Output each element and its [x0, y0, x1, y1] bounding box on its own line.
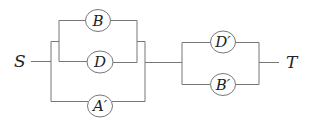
outer-right-wire [112, 42, 145, 102]
node-b-label: B [91, 12, 103, 30]
node-a-prime-label: A′ [91, 97, 108, 115]
node-b-prime-label: B′ [215, 76, 231, 94]
network-diagram: S B D A′ D′ B′ T [0, 0, 309, 120]
right-block-left-wire [182, 43, 211, 85]
node-a-prime: A′ [88, 95, 113, 117]
node-b: B [86, 10, 111, 32]
node-b-prime: B′ [211, 74, 236, 96]
outer-left-wire [51, 42, 88, 102]
source-terminal-label: S [14, 51, 26, 71]
inner-left-wire [59, 21, 87, 62]
node-d-prime-label: D′ [214, 33, 231, 51]
target-terminal-label: T [286, 52, 299, 72]
node-d: D [87, 51, 113, 73]
right-block-right-wire [235, 43, 259, 85]
inner-right-wire [110, 21, 137, 63]
node-d-prime: D′ [211, 31, 236, 53]
node-d-label: D [93, 53, 106, 71]
